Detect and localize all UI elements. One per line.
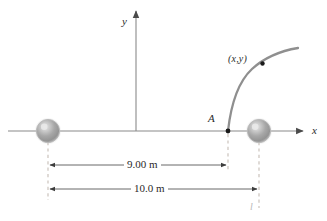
point-a-label: A xyxy=(208,113,215,124)
left-sphere xyxy=(34,117,61,144)
dimension-10m-label: 10.0 m xyxy=(131,183,168,194)
point-a-marker xyxy=(226,129,231,134)
length-symbol-label: l xyxy=(250,202,253,212)
point-xy-marker xyxy=(260,61,264,65)
dimension-9m-label: 9.00 m xyxy=(124,159,161,170)
y-axis-label: y xyxy=(122,16,127,27)
physics-figure: y x A (x,y) 9.00 m 10.0 m l xyxy=(0,0,327,221)
left-sphere-highlight xyxy=(41,124,48,131)
right-sphere xyxy=(245,117,272,144)
point-xy-label: (x,y) xyxy=(228,54,247,64)
right-sphere-highlight xyxy=(252,124,259,131)
x-axis-label: x xyxy=(312,125,317,136)
